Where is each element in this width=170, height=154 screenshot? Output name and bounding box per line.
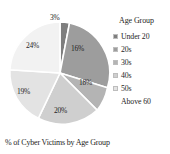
legend-label-40s: 40s [121,72,132,80]
legend-title: Age Group [119,16,170,25]
legend-swatch-icon-50s [113,86,118,91]
pie-label-30s: 18% [79,79,92,87]
legend-swatch-icon-20s [113,47,118,52]
legend: Age Group Under 20 20s 30s 40s 50s Above… [113,16,170,108]
legend-label-30s: 30s [121,59,132,67]
pie-label-under-20: 3% [50,14,60,22]
legend-label-20s: 20s [121,46,132,54]
legend-swatch-icon-40s [113,73,118,78]
legend-swatch-icon-under-20 [113,34,118,39]
pie-chart-area: 3% 16% 18% 20% 19% 24% [8,14,112,132]
legend-item-50s[interactable]: 50s [113,82,170,95]
legend-item-under-20[interactable]: Under 20 [113,30,170,43]
pie-label-50s: 19% [17,88,30,96]
legend-item-30s[interactable]: 30s [113,56,170,69]
pie-label-20s: 16% [71,45,84,53]
legend-label-50s: 50s [121,85,132,93]
pie-label-above-60: 24% [26,42,39,50]
pie-chart-figure: 3% 16% 18% 20% 19% 24% Age Group Under 2… [0,0,170,154]
legend-swatch-icon-30s [113,60,118,65]
legend-label-above-60: Above 60 [121,98,151,106]
legend-label-under-20: Under 20 [121,33,149,41]
chart-caption: % of Cyber Victims by Age Group [5,138,110,147]
legend-item-above-60[interactable]: Above 60 [113,95,170,108]
legend-item-40s[interactable]: 40s [113,69,170,82]
pie-label-40s: 20% [54,107,67,115]
legend-item-20s[interactable]: 20s [113,43,170,56]
legend-swatch-icon-above-60 [113,99,118,104]
